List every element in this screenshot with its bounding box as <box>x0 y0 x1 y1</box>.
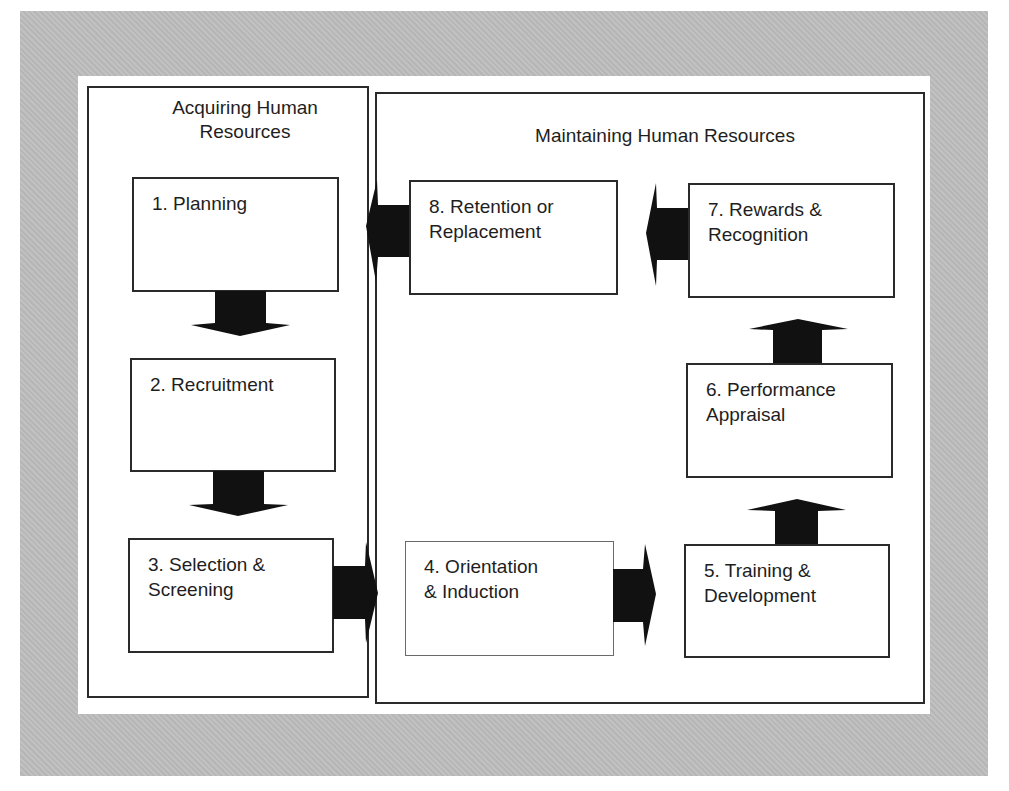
step-label-retention-replacement: 8. Retention or Replacement <box>429 194 554 244</box>
step-box-retention-replacement: 8. Retention or Replacement <box>409 180 618 295</box>
step-box-training-development: 5. Training & Development <box>684 544 890 658</box>
step-box-rewards-recognition: 7. Rewards & Recognition <box>688 183 895 298</box>
section-title-acquiring: Acquiring Human Resources <box>120 96 370 144</box>
step-box-performance-appraisal: 6. Performance Appraisal <box>686 363 893 478</box>
step-label-rewards-recognition: 7. Rewards & Recognition <box>708 197 822 247</box>
step-label-selection-screening: 3. Selection & Screening <box>148 552 265 602</box>
step-box-selection-screening: 3. Selection & Screening <box>128 538 334 653</box>
step-box-recruitment: 2. Recruitment <box>130 358 336 472</box>
step-label-orientation-induction: 4. Orientation & Induction <box>424 554 538 604</box>
step-label-recruitment: 2. Recruitment <box>150 372 274 397</box>
step-label-planning: 1. Planning <box>152 191 247 216</box>
section-title-maintaining: Maintaining Human Resources <box>470 124 860 148</box>
step-box-planning: 1. Planning <box>132 177 339 292</box>
step-label-training-development: 5. Training & Development <box>704 558 816 608</box>
step-box-orientation-induction: 4. Orientation & Induction <box>405 541 614 656</box>
step-label-performance-appraisal: 6. Performance Appraisal <box>706 377 836 427</box>
